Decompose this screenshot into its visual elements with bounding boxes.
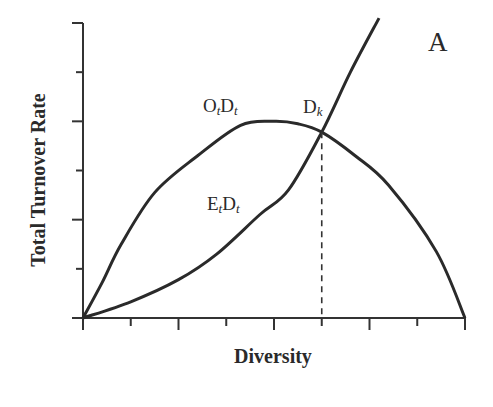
y-axis-title: Total Turnover Rate <box>27 93 49 266</box>
x-axis-title: Diversity <box>234 345 312 368</box>
label-OtDt: OtDt <box>203 95 238 118</box>
label-Dk: Dk <box>303 96 323 119</box>
chart: OtDt EtDt Dk A Diversity Total Turnover … <box>0 0 493 407</box>
label-EtDt: EtDt <box>207 193 240 216</box>
curve-OtDt <box>83 121 465 318</box>
axes <box>74 23 466 327</box>
x-ticks <box>83 318 465 330</box>
y-ticks <box>72 23 83 318</box>
panel-label: A <box>428 27 448 57</box>
curve-EtDt <box>83 18 379 318</box>
